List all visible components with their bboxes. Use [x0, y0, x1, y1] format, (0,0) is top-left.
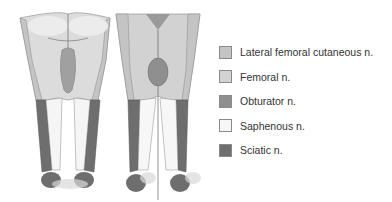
- swatch-lateral-femoral-cutaneous: [219, 46, 232, 59]
- swatch-obturator: [219, 95, 232, 108]
- posterior-legs-illustration: [18, 0, 118, 202]
- legend-item-femoral: Femoral n.: [219, 65, 373, 90]
- legend-label: Lateral femoral cutaneous n.: [240, 46, 373, 58]
- legend-label: Obturator n.: [240, 95, 296, 107]
- anterior-legs-illustration: [108, 0, 208, 202]
- legend-label: Femoral n.: [240, 71, 290, 83]
- legend-item-lateral-femoral-cutaneous: Lateral femoral cutaneous n.: [219, 40, 373, 65]
- legend-item-obturator: Obturator n.: [219, 89, 373, 114]
- legend-item-sciatic: Sciatic n.: [219, 138, 373, 163]
- legend-item-saphenous: Saphenous n.: [219, 114, 373, 139]
- swatch-femoral: [219, 70, 232, 83]
- swatch-saphenous: [219, 119, 232, 132]
- legend-label: Sciatic n.: [240, 144, 283, 156]
- swatch-sciatic: [219, 144, 232, 157]
- legend-label: Saphenous n.: [240, 120, 305, 132]
- nerve-legend: Lateral femoral cutaneous n. Femoral n. …: [219, 40, 373, 163]
